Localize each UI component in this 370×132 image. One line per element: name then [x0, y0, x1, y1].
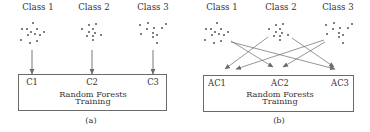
class-label-3: Class 3 [137, 3, 168, 12]
input-label-ac3: AC3 [331, 79, 349, 87]
box-title-line2: Training [262, 96, 297, 106]
panel-caption-b: (b) [273, 116, 285, 124]
dot-cluster-a-class2 [81, 23, 102, 41]
class-label-2: Class 2 [265, 3, 296, 12]
dot-cluster-b-class3 [325, 22, 353, 44]
input-label-c1: C1 [26, 78, 38, 86]
class-label-3: Class 3 [322, 3, 353, 12]
arrow-class1-to-ac2 [231, 41, 273, 67]
box-title: Random Forests Training [246, 91, 314, 106]
dot-cluster-a-class1 [20, 22, 45, 44]
figure: Class 1 Class 2 Class 3 C1 C2 C3 Random … [0, 0, 370, 132]
arrow-class3-to-ac1 [236, 40, 324, 69]
arrow-class2-to-ac3 [292, 38, 334, 67]
arrow-class3-to-ac2 [283, 42, 325, 67]
dot-cluster-a-class3 [139, 22, 167, 44]
input-label-c2: C2 [86, 78, 98, 86]
diagram-graphics [0, 0, 370, 132]
input-label-ac2: AC2 [271, 79, 289, 87]
box-title-line2: Training [75, 96, 110, 106]
arrow-class1-to-ac3 [231, 42, 335, 69]
box-title: Random Forests Training [59, 91, 127, 106]
panel-caption-a: (a) [85, 116, 96, 124]
dot-cluster-b-class1 [204, 22, 229, 44]
input-label-ac1: AC1 [208, 79, 226, 87]
class-label-1: Class 1 [22, 3, 53, 12]
class-label-2: Class 2 [78, 3, 109, 12]
class-label-1: Class 1 [206, 3, 237, 12]
input-label-c3: C3 [147, 78, 159, 86]
dot-cluster-b-class2 [268, 23, 289, 41]
